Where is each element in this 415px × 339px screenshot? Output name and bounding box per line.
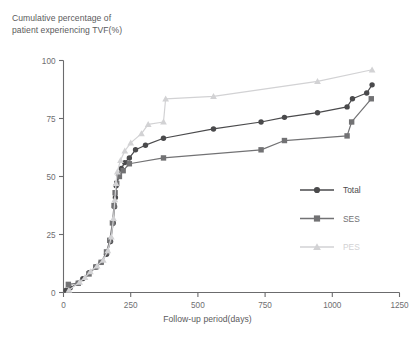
x-tick-label: 500 (191, 301, 205, 310)
data-point-marker (344, 104, 349, 109)
series-total (63, 82, 374, 293)
legend-label: Total (343, 185, 361, 195)
data-point-marker (344, 133, 349, 138)
data-point-marker (160, 119, 167, 125)
data-point-marker (161, 155, 166, 160)
chart-container: Cumulative percentage of patient experie… (0, 0, 415, 339)
chart-legend: TotalSESPES (300, 185, 361, 252)
data-point-marker (314, 187, 320, 193)
data-point-marker (133, 147, 138, 152)
x-tick-label: 1000 (323, 301, 342, 310)
series-line (66, 85, 372, 290)
series-ses (66, 96, 374, 287)
data-point-marker (211, 126, 216, 131)
data-point-marker (315, 110, 320, 115)
y-tick-label: 50 (46, 173, 56, 182)
x-tick-label: 250 (124, 301, 138, 310)
data-point-marker (349, 119, 354, 124)
data-point-marker (161, 136, 166, 141)
data-point-marker (369, 82, 374, 87)
legend-label: PES (343, 242, 360, 252)
data-point-marker (314, 215, 320, 221)
data-point-marker (282, 138, 287, 143)
y-tick-label: 75 (46, 115, 56, 124)
x-tick-label: 0 (61, 301, 66, 310)
data-point-marker (127, 155, 132, 160)
x-tick-label: 750 (258, 301, 272, 310)
legend-label: SES (343, 214, 360, 224)
y-tick-label: 0 (51, 289, 56, 298)
data-point-marker (117, 157, 124, 163)
data-point-marker (143, 142, 148, 147)
y-tick-label: 100 (42, 57, 56, 66)
data-point-marker (369, 66, 376, 72)
data-point-marker (258, 119, 263, 124)
data-point-marker (350, 96, 355, 101)
data-point-marker (369, 96, 374, 101)
y-tick-label: 25 (46, 231, 56, 240)
legend-item-total[interactable]: Total (300, 185, 361, 195)
series-line (69, 70, 372, 290)
data-point-marker (258, 147, 263, 152)
series-pes (66, 66, 376, 292)
series-group (63, 66, 375, 292)
x-tick-label: 1250 (390, 301, 409, 310)
data-point-marker (364, 90, 369, 95)
data-point-marker (282, 115, 287, 120)
plot-area: 0255075100025050075010001250 TotalSESPES (0, 0, 415, 339)
data-point-marker (66, 282, 71, 287)
legend-item-ses[interactable]: SES (300, 214, 360, 224)
legend-item-pes[interactable]: PES (300, 242, 360, 252)
data-point-marker (127, 161, 132, 166)
data-point-marker (120, 168, 125, 173)
data-point-marker (110, 215, 117, 221)
data-point-marker (108, 233, 115, 239)
